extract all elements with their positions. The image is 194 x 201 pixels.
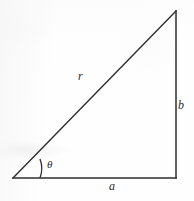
triangle-drawing: [0, 0, 194, 201]
vertical-leg-label: b: [178, 99, 184, 111]
hypotenuse-line: [13, 11, 176, 178]
angle-arc: [40, 159, 42, 178]
triangle-figure: r b a θ: [0, 0, 194, 201]
horizontal-leg-label: a: [109, 180, 115, 192]
hypotenuse-label: r: [78, 70, 83, 82]
angle-label: θ: [47, 159, 52, 170]
